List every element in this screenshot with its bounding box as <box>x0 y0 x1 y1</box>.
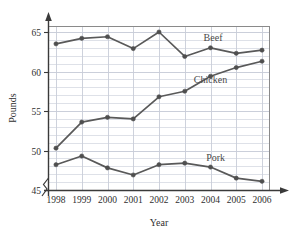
data-point-beef-2001 <box>131 46 135 50</box>
data-point-pork-2005 <box>234 176 238 180</box>
data-point-chicken-2002 <box>157 95 161 99</box>
y-axis-ticks <box>44 33 48 191</box>
y-axis-tick-labels: 4550556065 <box>32 28 42 196</box>
x-axis-title: Year <box>150 217 169 228</box>
y-tick-label: 55 <box>32 107 42 117</box>
x-tick-label: 2000 <box>98 195 117 205</box>
x-tick-label: 2002 <box>150 195 169 205</box>
y-tick-label: 45 <box>32 186 42 196</box>
data-point-beef-2005 <box>234 51 238 55</box>
data-point-beef-1999 <box>80 36 84 40</box>
x-tick-label: 2005 <box>227 195 246 205</box>
x-axis-tick-labels: 199819992000200120022003200420052006 <box>47 195 272 205</box>
data-point-pork-2001 <box>131 173 135 177</box>
data-point-chicken-2003 <box>183 89 187 93</box>
data-point-chicken-1998 <box>54 146 58 150</box>
y-tick-label: 60 <box>32 68 42 78</box>
data-point-beef-2003 <box>183 54 187 58</box>
data-point-beef-2006 <box>260 48 264 52</box>
x-tick-label: 1999 <box>72 195 91 205</box>
y-tick-label: 65 <box>32 28 42 38</box>
data-point-beef-2000 <box>105 35 109 39</box>
x-tick-label: 2001 <box>124 195 143 205</box>
line-chart-figure: 4550556065 19981999200020012002200320042… <box>0 0 294 234</box>
series-label-beef: Beef <box>204 32 224 43</box>
data-point-beef-2002 <box>157 30 161 34</box>
series-label-pork: Pork <box>206 152 225 163</box>
y-tick-label: 50 <box>32 147 42 157</box>
data-point-pork-1998 <box>54 163 58 167</box>
axis-break-symbol <box>42 178 49 196</box>
x-tick-label: 2003 <box>175 195 194 205</box>
y-axis-title: Pounds <box>7 93 18 123</box>
data-point-chicken-2006 <box>260 59 264 63</box>
x-tick-label: 1998 <box>47 195 66 205</box>
data-point-pork-2002 <box>157 163 161 167</box>
data-point-pork-1999 <box>80 154 84 158</box>
data-point-beef-2004 <box>208 46 212 50</box>
data-point-pork-2006 <box>260 179 264 183</box>
data-point-beef-1998 <box>54 42 58 46</box>
x-tick-label: 2004 <box>201 195 220 205</box>
data-point-chicken-2001 <box>131 117 135 121</box>
data-point-pork-2003 <box>183 161 187 165</box>
series-label-chicken: Chicken <box>194 74 227 85</box>
data-point-chicken-2005 <box>234 65 238 69</box>
data-point-chicken-1999 <box>80 120 84 124</box>
data-point-pork-2000 <box>105 166 109 170</box>
x-tick-label: 2006 <box>253 195 272 205</box>
data-point-chicken-2000 <box>105 115 109 119</box>
chart-canvas: 4550556065 19981999200020012002200320042… <box>0 0 294 234</box>
data-point-pork-2004 <box>208 165 212 169</box>
